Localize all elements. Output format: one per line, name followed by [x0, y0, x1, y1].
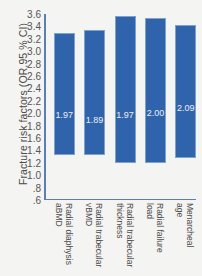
bar-value-label: 1.89: [86, 115, 104, 125]
bar-value-label: 1.97: [116, 110, 134, 120]
x-axis-label: Radial diaphysis aBMD: [59, 203, 73, 273]
x-axis-label: Radial trabecular thickness: [120, 203, 134, 273]
y-tick-label: 2.6: [27, 71, 41, 82]
plot-area: 3.63.43.23.02.82.62.42.22.01.81.61.41.21…: [44, 14, 196, 200]
y-tick-label: 1.6: [27, 133, 41, 144]
bar-value-label: 2.00: [147, 108, 165, 118]
y-tick-label: 3.0: [27, 46, 41, 57]
x-axis-baseline: [44, 199, 196, 201]
y-tick-label: .8: [33, 182, 41, 193]
y-tick-label: 1.2: [27, 157, 41, 168]
x-axis-label: Menarcheal age: [180, 203, 194, 273]
y-tick-label: 2.0: [27, 108, 41, 119]
x-axis-labels: Radial diaphysis aBMDRadial trabecular v…: [44, 203, 196, 275]
bar: 1.97: [54, 33, 75, 156]
bar-value-label: 1.97: [55, 110, 73, 120]
x-axis-label: Radial trabecular vBMD: [89, 203, 103, 273]
y-axis-line: [44, 14, 46, 200]
y-tick-label: .6: [33, 195, 41, 206]
y-tick-label: 3.6: [27, 9, 41, 20]
bar: 2.09: [175, 25, 196, 158]
y-tick-label: 2.2: [27, 95, 41, 106]
y-tick-label: 2.4: [27, 83, 41, 94]
y-tick-label: 3.2: [27, 33, 41, 44]
y-tick-label: 3.4: [27, 21, 41, 32]
x-axis-label: Radial failure load: [150, 203, 164, 273]
bar-value-label: 2.09: [177, 103, 195, 113]
bar: 2.00: [145, 18, 166, 163]
bar: 1.89: [84, 30, 105, 155]
y-tick-label: 1.0: [27, 170, 41, 181]
y-tick-label: 1.4: [27, 145, 41, 156]
y-tick-label: 1.8: [27, 120, 41, 131]
y-tick-label: 2.8: [27, 58, 41, 69]
chart-figure: Fracture risk factors (OR,95 % CI) 3.63.…: [0, 0, 202, 276]
bar: 1.97: [115, 16, 136, 163]
